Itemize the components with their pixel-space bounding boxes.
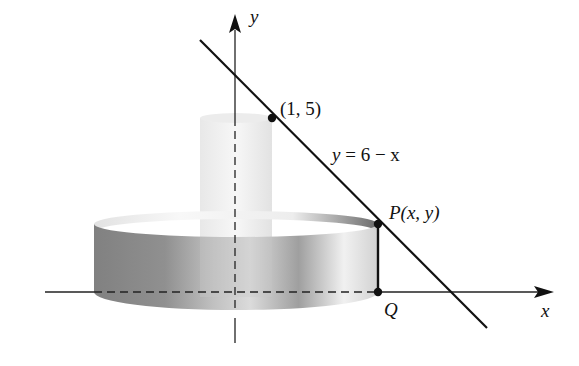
y-axis-label: y	[250, 6, 258, 28]
point-1-5	[268, 114, 276, 122]
equation-label: y = 6 − x	[332, 144, 400, 166]
point-p-coords: (x, y)	[401, 202, 440, 223]
equation-rhs: = 6 − x	[345, 144, 400, 165]
point-p	[374, 220, 382, 228]
point-q	[374, 288, 382, 296]
equation-lhs: y	[332, 144, 340, 165]
point-p-label: P(x, y)	[389, 202, 440, 224]
intercept-point-label: (1, 5)	[280, 98, 321, 120]
point-p-name: P	[389, 202, 401, 223]
x-axis-label: x	[541, 300, 549, 322]
shell-method-diagram	[0, 0, 579, 366]
point-q-label: Q	[384, 299, 398, 321]
